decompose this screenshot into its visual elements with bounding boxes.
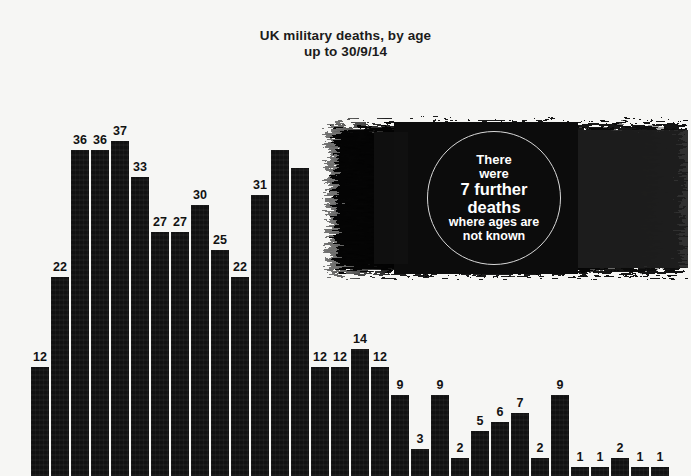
callout-line-2: were [479, 167, 509, 181]
bar[interactable] [611, 458, 629, 476]
bar[interactable] [311, 367, 329, 476]
bar-value-label: 6 [497, 406, 504, 418]
bar[interactable] [531, 458, 549, 476]
bar-column[interactable]: 1 [631, 0, 649, 476]
bar-value-label: 25 [213, 234, 227, 246]
bar[interactable] [31, 367, 49, 476]
bar-value-label: 22 [53, 261, 67, 273]
bar[interactable] [411, 449, 429, 476]
bar-column[interactable] [271, 0, 289, 476]
bar[interactable] [231, 277, 249, 476]
bar[interactable] [71, 150, 89, 476]
callout-line-6: not known [463, 230, 526, 244]
bar-column[interactable]: 27 [151, 0, 169, 476]
bar-value-label: 37 [113, 125, 127, 137]
bar-value-label: 1 [637, 451, 644, 463]
bar-value-label: 22 [233, 261, 247, 273]
bar-column[interactable]: 36 [91, 0, 109, 476]
bar-column[interactable]: 31 [251, 0, 269, 476]
bar-value-label: 14 [353, 333, 367, 345]
bar-value-label: 1 [657, 451, 664, 463]
bar[interactable] [431, 395, 449, 476]
bar-column[interactable]: 22 [51, 0, 69, 476]
bar-column[interactable]: 1 [651, 0, 669, 476]
bar-value-label: 12 [33, 351, 47, 363]
bar-value-label: 9 [557, 379, 564, 391]
bar-column[interactable]: 3 [411, 0, 429, 476]
bar-value-label: 2 [457, 442, 464, 454]
bar-column[interactable]: 9 [551, 0, 569, 476]
bar[interactable] [271, 150, 289, 476]
bar-value-label: 3 [417, 433, 424, 445]
bar-column[interactable]: 30 [191, 0, 209, 476]
bar-value-label: 27 [173, 216, 187, 228]
bar-value-label: 12 [373, 351, 387, 363]
bar[interactable] [451, 458, 469, 476]
bar-column[interactable]: 33 [131, 0, 149, 476]
callout-line-4: deaths [467, 199, 520, 217]
bar[interactable] [291, 168, 309, 476]
bar[interactable] [391, 395, 409, 476]
bar-column[interactable]: 27 [171, 0, 189, 476]
bar-column[interactable]: 14 [351, 0, 369, 476]
bar-column[interactable]: 12 [331, 0, 349, 476]
bar-column[interactable]: 37 [111, 0, 129, 476]
bar[interactable] [171, 232, 189, 476]
bar[interactable] [91, 150, 109, 476]
bar-column[interactable]: 2 [611, 0, 629, 476]
bar-column[interactable]: 12 [311, 0, 329, 476]
bar-column[interactable] [671, 0, 689, 476]
callout-line-5: where ages are [449, 216, 539, 230]
bar-value-label: 9 [397, 379, 404, 391]
bar-value-label: 1 [577, 451, 584, 463]
bar-value-label: 30 [193, 189, 207, 201]
bar[interactable] [331, 367, 349, 476]
bar-value-label: 27 [153, 216, 167, 228]
bar[interactable] [131, 177, 149, 476]
bar[interactable] [471, 431, 489, 476]
bar-value-label: 36 [73, 134, 87, 146]
bar-column[interactable]: 12 [31, 0, 49, 476]
bar-value-label: 5 [477, 415, 484, 427]
bar[interactable] [631, 467, 649, 476]
bar-column[interactable]: 36 [71, 0, 89, 476]
bar[interactable] [371, 367, 389, 476]
bar-column[interactable]: 12 [371, 0, 389, 476]
callout-line-3: 7 further [461, 181, 528, 199]
bar-column[interactable]: 1 [571, 0, 589, 476]
bar[interactable] [191, 205, 209, 476]
bar[interactable] [151, 232, 169, 476]
bar[interactable] [251, 195, 269, 476]
bar[interactable] [551, 395, 569, 476]
bar-value-label: 36 [93, 134, 107, 146]
bar-column[interactable]: 25 [211, 0, 229, 476]
bar[interactable] [51, 277, 69, 476]
bar-value-label: 31 [253, 179, 267, 191]
bar-column[interactable]: 9 [391, 0, 409, 476]
bar[interactable] [211, 250, 229, 476]
bar-value-label: 9 [437, 379, 444, 391]
bar-value-label: 1 [597, 451, 604, 463]
bar-value-label: 33 [133, 161, 147, 173]
bar[interactable] [591, 467, 609, 476]
bar-value-label: 2 [537, 442, 544, 454]
bar-column[interactable]: 1 [591, 0, 609, 476]
bar-column[interactable] [291, 0, 309, 476]
bar[interactable] [491, 422, 509, 476]
bar-value-label: 7 [517, 397, 524, 409]
bar[interactable] [651, 467, 669, 476]
callout-circle: There were 7 further deaths where ages a… [427, 131, 561, 265]
bar[interactable] [511, 413, 529, 476]
bar[interactable] [111, 141, 129, 476]
callout-line-1: There [476, 153, 511, 167]
bar-value-label: 2 [617, 442, 624, 454]
bar-value-label: 12 [313, 351, 327, 363]
bar-value-label: 12 [333, 351, 347, 363]
bar[interactable] [351, 349, 369, 476]
bar[interactable] [571, 467, 589, 476]
bar-column[interactable]: 22 [231, 0, 249, 476]
